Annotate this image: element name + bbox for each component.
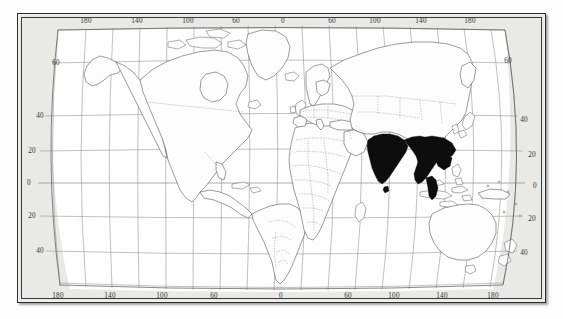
top-label: 100	[369, 17, 381, 25]
right-label: 20	[528, 215, 536, 223]
bottom-label: 0	[279, 292, 283, 300]
left-label: 60	[52, 59, 60, 67]
left-label: 20	[28, 212, 36, 220]
bottom-label: 140	[104, 292, 116, 300]
map-canvas: 180 140 100 60 0 60 100 140 180 180 140 …	[0, 0, 563, 319]
right-label: 20	[528, 151, 536, 159]
top-label: 140	[131, 17, 143, 25]
bottom-label: 180	[52, 292, 64, 300]
bottom-label: 60	[210, 292, 218, 300]
bottom-label: 140	[436, 292, 448, 300]
longitude-labels-top: 180 140 100 60 0 60 100 140 180	[80, 17, 476, 25]
bottom-label: 180	[487, 292, 499, 300]
right-label: 40	[520, 249, 528, 257]
bottom-label: 100	[156, 292, 168, 300]
world-distribution-map: 180 140 100 60 0 60 100 140 180 180 140 …	[0, 0, 563, 319]
top-label: 180	[464, 17, 476, 25]
right-label: 40	[520, 116, 528, 124]
bottom-label: 60	[344, 292, 352, 300]
top-label: 180	[80, 17, 92, 25]
left-label: 20	[28, 147, 36, 155]
longitude-labels-bottom: 180 140 100 60 0 60 100 140 180	[52, 292, 499, 300]
top-label: 60	[232, 17, 240, 25]
top-label: 0	[281, 17, 285, 25]
left-label: 40	[36, 247, 44, 255]
left-label: 40	[36, 112, 44, 120]
right-label: 60	[504, 57, 512, 65]
right-label: 0	[533, 182, 537, 190]
top-label: 100	[182, 17, 194, 25]
left-label: 0	[27, 179, 31, 187]
top-label: 60	[328, 17, 336, 25]
bottom-label: 100	[388, 292, 400, 300]
top-label: 140	[415, 17, 427, 25]
